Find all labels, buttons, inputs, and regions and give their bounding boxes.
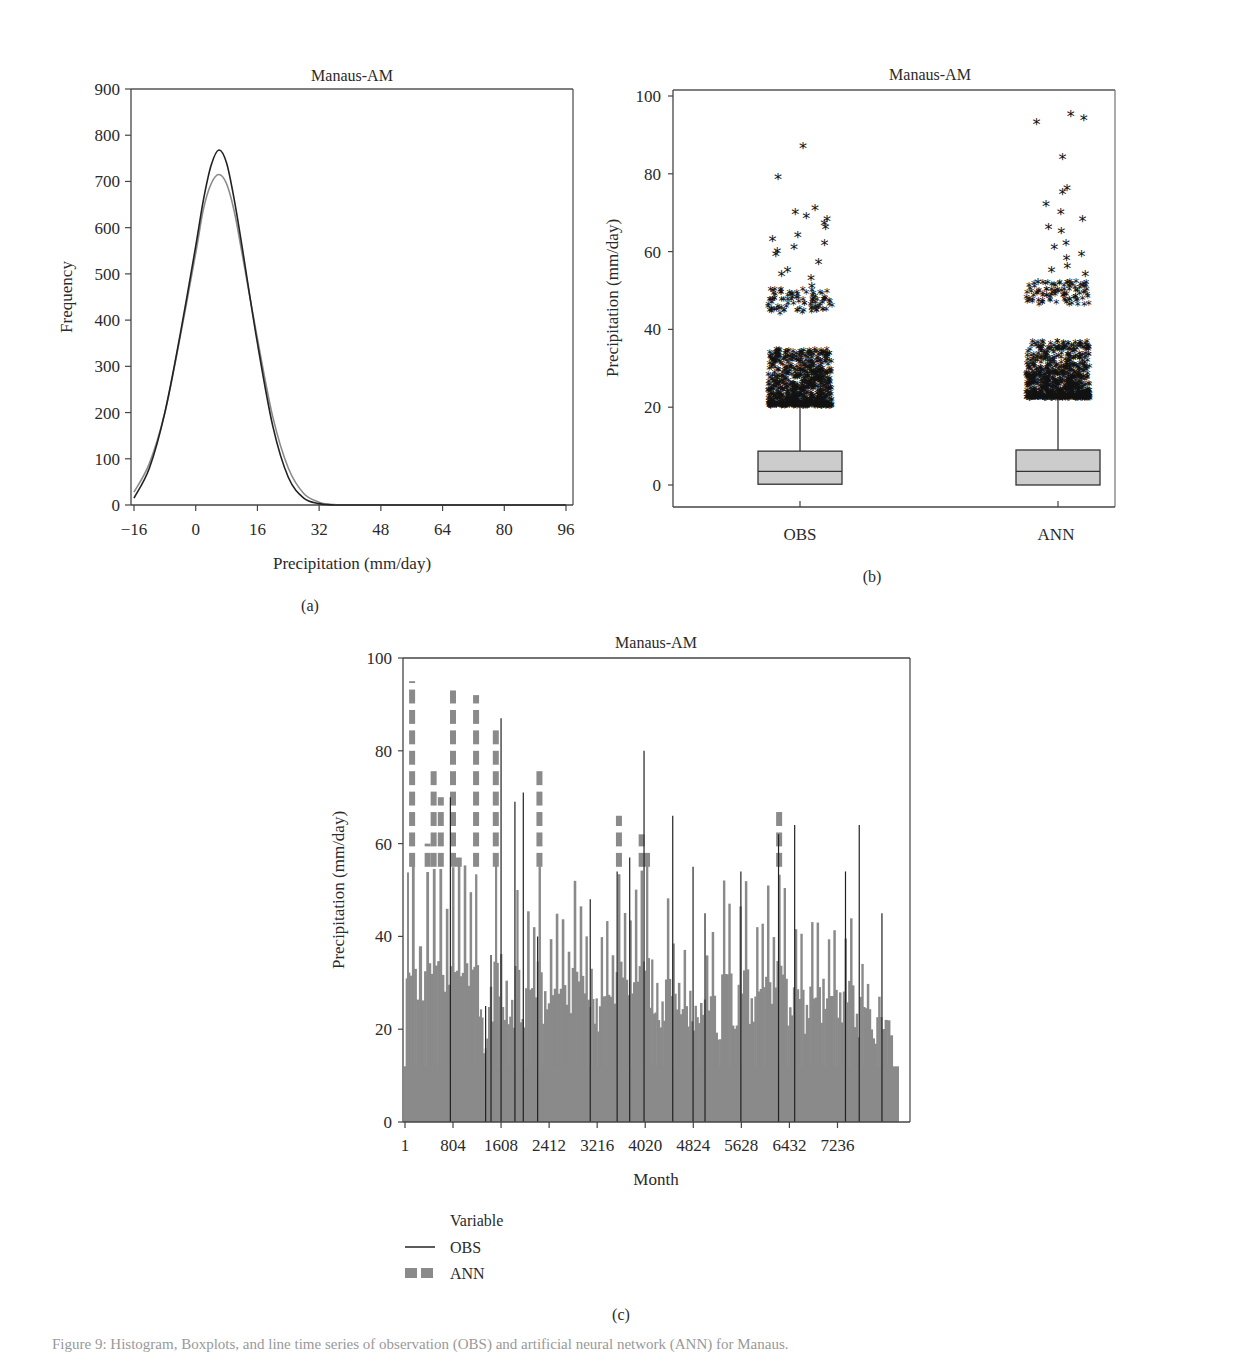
y-tick-label: 100 [367, 649, 393, 668]
x-tick-label: 16 [249, 520, 266, 539]
ann-dash [473, 832, 479, 846]
figure-canvas: Manaus-AM 0100200300400500600700800900 −… [0, 0, 1243, 1355]
panel-c-x-label: Month [633, 1170, 679, 1189]
legend-title: Variable [450, 1212, 503, 1229]
x-tick-label: 3216 [580, 1136, 614, 1155]
outlier-marker: * [801, 305, 807, 319]
ann-dash [438, 832, 444, 846]
x-tick-label: 1 [401, 1136, 410, 1155]
outlier-marker: * [794, 382, 800, 396]
y-tick-label: 0 [112, 496, 121, 515]
y-tick-label: 20 [375, 1020, 392, 1039]
x-tick-label: 6432 [772, 1136, 806, 1155]
x-tick-label: 32 [311, 520, 328, 539]
panel-c-y-axis: 020406080100 [367, 649, 404, 1132]
ann-dash [409, 730, 415, 744]
panel-b-y-label: Precipitation (mm/day) [603, 219, 622, 377]
outlier-marker: * [1034, 275, 1042, 294]
outlier-marker: * [1036, 366, 1042, 380]
ann-dash [450, 751, 456, 765]
panel-a-x-axis: −160163248648096 [121, 505, 575, 539]
outlier-marker: * [789, 289, 795, 303]
ann-dash [425, 844, 431, 847]
ann-dash [473, 710, 479, 724]
outlier-marker: * [1078, 212, 1086, 231]
outlier-marker: * [1027, 283, 1033, 297]
box-ann: ****************************************… [1016, 107, 1100, 507]
outlier-marker: * [772, 247, 780, 266]
panel-a-title: Manaus-AM [311, 67, 393, 84]
ann-dash [450, 710, 456, 724]
outlier-marker: * [785, 369, 791, 383]
outlier-marker: * [1048, 338, 1054, 352]
outlier-marker: * [1045, 220, 1053, 239]
x-tick-label: −16 [121, 520, 148, 539]
outlier-marker: * [1063, 259, 1071, 278]
outlier-marker: * [1064, 277, 1070, 291]
outlier-marker: * [815, 400, 821, 414]
y-tick-label: 200 [95, 404, 121, 423]
panel-b-category-ann: ANN [1038, 525, 1075, 544]
outlier-marker: * [817, 364, 823, 378]
outlier-marker: * [1027, 379, 1033, 393]
outlier-marker: * [1085, 393, 1091, 407]
y-tick-label: 80 [644, 165, 661, 184]
ann-dash [431, 812, 437, 826]
x-tick-label: 4824 [676, 1136, 711, 1155]
outlier-marker: * [778, 267, 786, 286]
outlier-marker: * [1072, 337, 1078, 351]
x-tick-label: 4020 [628, 1136, 662, 1155]
outlier-marker: * [1059, 150, 1067, 169]
y-tick-label: 0 [384, 1113, 393, 1132]
outlier-marker: * [828, 400, 834, 414]
ann-dash [438, 797, 444, 805]
y-tick-label: 80 [375, 742, 392, 761]
ann-dash [431, 853, 437, 867]
panel-b-label: (b) [863, 568, 882, 586]
panel-a-histogram-curves: Manaus-AM 0100200300400500600700800900 −… [57, 67, 575, 615]
ann-dash [616, 853, 622, 867]
iqr-box [758, 451, 842, 484]
outlier-marker: * [803, 362, 809, 376]
iqr-box [1016, 450, 1100, 485]
outlier-marker: * [1042, 197, 1050, 216]
y-tick-label: 900 [95, 80, 121, 99]
figure-caption: Figure 9: Histogram, Boxplots, and line … [52, 1336, 1202, 1355]
outlier-marker: * [1077, 247, 1085, 266]
outlier-marker: * [1025, 346, 1031, 360]
ann-dash [409, 771, 415, 785]
ann-dash [431, 771, 437, 785]
y-tick-label: 0 [653, 476, 662, 495]
y-tick-label: 60 [644, 243, 661, 262]
panel-c-time-series: Manaus-AM 020406080100 18041608241232164… [329, 634, 910, 1324]
outlier-cloud: ****************************************… [1023, 107, 1093, 407]
y-tick-label: 600 [95, 219, 121, 238]
outlier-marker: * [817, 299, 823, 313]
ann-dash [473, 853, 479, 867]
panel-a-axes-frame [131, 89, 573, 505]
ann-dash [473, 751, 479, 765]
outlier-marker: * [790, 240, 798, 259]
series-obs-line [134, 150, 566, 505]
panel-c-legend: Variable OBS ANN [405, 1212, 503, 1282]
panel-c-ann-bars [404, 681, 899, 1122]
outlier-marker: * [781, 305, 787, 319]
outlier-marker: * [825, 388, 831, 402]
ann-base [404, 1066, 899, 1122]
ann-dash [536, 853, 542, 867]
ann-dash [493, 771, 499, 785]
outlier-marker: * [806, 345, 812, 359]
ann-dash [425, 853, 431, 867]
ann-dash [536, 792, 542, 806]
y-tick-label: 20 [644, 398, 661, 417]
outlier-marker: * [824, 344, 830, 358]
ann-dash [438, 812, 444, 826]
panel-b-boxplots: Manaus-AM 020406080100 *****************… [603, 66, 1115, 586]
panel-a-x-label: Precipitation (mm/day) [273, 554, 431, 573]
outlier-marker: * [791, 205, 799, 224]
outlier-marker: * [1058, 185, 1066, 204]
outlier-marker: * [1066, 294, 1072, 308]
outlier-marker: * [1058, 285, 1064, 299]
ann-dash [493, 853, 499, 867]
outlier-marker: * [1055, 343, 1061, 357]
